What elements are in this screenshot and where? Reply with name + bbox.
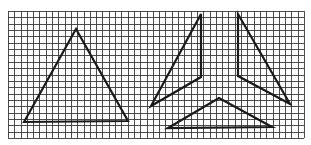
piece-right — [238, 14, 290, 104]
piece-bottom — [168, 98, 272, 128]
grid-figure — [0, 0, 311, 145]
piece-left — [151, 14, 201, 106]
triangle-shapes — [24, 14, 290, 128]
